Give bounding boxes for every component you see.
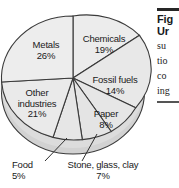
- slice-label-paper-pct: 8%: [82, 120, 130, 131]
- slice-label-fossil-fuels-name: Fossil fuels: [92, 74, 137, 85]
- slice-label-chemicals: Chemicals 19%: [73, 34, 135, 55]
- slice-label-chemicals-pct: 19%: [73, 45, 135, 56]
- caption-heading-line2: Ur: [157, 26, 169, 38]
- slice-label-other-industries: Other industries 21%: [6, 88, 68, 120]
- pie-chart: Metals 26% Chemicals 19% Fossil fuels 14…: [0, 0, 152, 188]
- slice-label-chemicals-name: Chemicals: [83, 33, 126, 44]
- slice-label-stone-glass-clay: Stone, glass, clay 7%: [59, 160, 147, 181]
- figure-root: Metals 26% Chemicals 19% Fossil fuels 14…: [0, 0, 179, 188]
- slice-label-fossil-fuels-pct: 14%: [82, 86, 148, 97]
- slice-label-metals: Metals 26%: [18, 40, 74, 61]
- caption-body-line4: ing: [157, 85, 170, 96]
- slice-label-other-industries-name: Other: [26, 87, 49, 98]
- slice-label-stone-glass-clay-pct: 7%: [59, 171, 147, 182]
- slice-label-metals-pct: 26%: [18, 51, 74, 62]
- slice-label-paper-name: Paper: [94, 108, 118, 119]
- slice-label-food: Food 5%: [12, 160, 52, 181]
- caption-rule-top: [157, 8, 179, 11]
- caption-rule-bottom: [157, 101, 179, 103]
- slice-label-food-name: Food: [12, 159, 33, 170]
- slice-label-other-industries-pct: 21%: [6, 109, 68, 120]
- slice-label-paper: Paper 8%: [82, 109, 130, 130]
- slice-label-food-pct: 5%: [12, 171, 52, 182]
- figure-caption: Fig Ur su tio co ing: [152, 0, 179, 188]
- slice-label-metals-name: Metals: [33, 39, 60, 50]
- caption-body-line3: co: [157, 70, 166, 81]
- caption-body-line2: tio: [157, 55, 168, 66]
- slice-label-stone-glass-clay-name: Stone, glass, clay: [68, 159, 139, 170]
- caption-body-line1: su: [157, 40, 166, 51]
- slice-label-fossil-fuels: Fossil fuels 14%: [82, 75, 148, 96]
- caption-heading-line1: Fig: [157, 14, 173, 26]
